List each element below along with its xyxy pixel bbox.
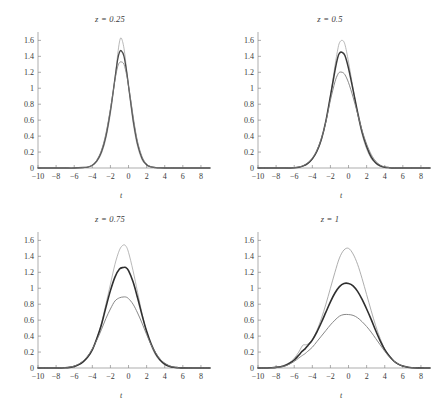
x-tick-label: −10 xyxy=(252,372,265,381)
y-tick-label: 0.2 xyxy=(24,148,34,157)
x-tick-label: 6 xyxy=(401,172,405,181)
x-axis-label-wrap: t xyxy=(220,191,440,200)
x-tick-label: 4 xyxy=(163,372,167,381)
x-tick-label: 0 xyxy=(127,172,131,181)
x-tick-label: 2 xyxy=(145,172,149,181)
data-curve xyxy=(258,248,430,368)
y-tick-label: 0.4 xyxy=(244,332,254,341)
plot-svg: 00.20.40.60.811.21.41.6−10−8−6−4−202468 xyxy=(12,228,212,390)
panel-title: z = 1 xyxy=(220,214,440,224)
x-tick-label: −10 xyxy=(252,172,265,181)
x-axis-label: t xyxy=(318,391,342,400)
x-tick-label: −4 xyxy=(308,172,317,181)
x-tick-label: 6 xyxy=(401,372,405,381)
x-tick-label: −6 xyxy=(70,172,79,181)
y-tick-label: 0.8 xyxy=(24,300,34,309)
x-tick-label: 0 xyxy=(347,372,351,381)
y-tick-label: 0.6 xyxy=(24,316,34,325)
x-axis-label: t xyxy=(98,391,122,400)
x-tick-label: 0 xyxy=(127,372,131,381)
data-curve xyxy=(258,72,430,168)
y-tick-label: 1 xyxy=(30,284,34,293)
panel-title: z = 0.5 xyxy=(220,14,440,24)
x-tick-label: −8 xyxy=(52,172,61,181)
data-curve xyxy=(258,283,430,368)
plot-area: 00.20.40.60.811.21.41.6−10−8−6−4−202468 xyxy=(232,228,432,390)
plot-area: 00.20.40.60.811.21.41.6−10−8−6−4−202468 xyxy=(12,28,212,190)
plot-svg: 00.20.40.60.811.21.41.6−10−8−6−4−202468 xyxy=(232,228,432,390)
x-tick-label: 8 xyxy=(419,172,423,181)
x-tick-label: −2 xyxy=(326,172,335,181)
x-tick-label: 8 xyxy=(419,372,423,381)
panel-z-1: z = 1 00.20.40.60.811.21.41.6−10−8−6−4−2… xyxy=(220,200,440,400)
x-axis-label: t xyxy=(98,191,122,200)
x-tick-label: −10 xyxy=(32,372,45,381)
data-curve xyxy=(38,267,210,368)
x-tick-label: 6 xyxy=(181,172,185,181)
x-tick-label: 4 xyxy=(383,172,387,181)
x-tick-label: 2 xyxy=(365,372,369,381)
x-tick-label: −4 xyxy=(88,172,97,181)
panel-z-0-75: z = 0.75 00.20.40.60.811.21.41.6−10−8−6−… xyxy=(0,200,220,400)
plot-svg: 00.20.40.60.811.21.41.6−10−8−6−4−202468 xyxy=(12,28,212,190)
x-tick-label: 8 xyxy=(199,172,203,181)
x-tick-label: 4 xyxy=(383,372,387,381)
y-tick-label: 1 xyxy=(250,84,254,93)
y-tick-label: 1.6 xyxy=(24,36,34,45)
x-tick-label: −6 xyxy=(290,172,299,181)
data-curve xyxy=(258,314,430,368)
y-tick-label: 0.4 xyxy=(24,132,34,141)
data-curve xyxy=(258,40,430,168)
panel-z-0-5: z = 0.5 00.20.40.60.811.21.41.6−10−8−6−4… xyxy=(220,0,440,200)
y-tick-label: 1.6 xyxy=(244,36,254,45)
plot-svg: 00.20.40.60.811.21.41.6−10−8−6−4−202468 xyxy=(232,28,432,190)
x-axis-label: t xyxy=(318,191,342,200)
x-tick-label: −2 xyxy=(326,372,335,381)
y-tick-label: 0.2 xyxy=(24,348,34,357)
x-tick-label: −2 xyxy=(106,372,115,381)
plot-area: 00.20.40.60.811.21.41.6−10−8−6−4−202468 xyxy=(12,228,212,390)
x-tick-label: −10 xyxy=(32,172,45,181)
y-tick-label: 1.4 xyxy=(24,252,34,261)
x-tick-label: 2 xyxy=(365,172,369,181)
panel-z-0-25: z = 0.25 00.20.40.60.811.21.41.6−10−8−6−… xyxy=(0,0,220,200)
y-tick-label: 0.8 xyxy=(244,300,254,309)
y-tick-label: 1.2 xyxy=(244,68,254,77)
y-tick-label: 1.4 xyxy=(244,252,254,261)
x-tick-label: 2 xyxy=(145,372,149,381)
x-axis-label-wrap: t xyxy=(0,191,220,200)
y-tick-label: 1.4 xyxy=(244,52,254,61)
y-tick-label: 0.4 xyxy=(24,332,34,341)
y-tick-label: 1.6 xyxy=(24,236,34,245)
x-tick-label: −8 xyxy=(272,172,281,181)
y-tick-label: 0.2 xyxy=(244,148,254,157)
x-tick-label: −6 xyxy=(70,372,79,381)
y-tick-label: 1 xyxy=(250,284,254,293)
x-tick-label: −4 xyxy=(308,372,317,381)
x-axis-label-wrap: t xyxy=(220,391,440,400)
y-tick-label: 1.2 xyxy=(244,268,254,277)
x-tick-label: −2 xyxy=(106,172,115,181)
plot-area: 00.20.40.60.811.21.41.6−10−8−6−4−202468 xyxy=(232,28,432,190)
y-tick-label: 1.4 xyxy=(24,52,34,61)
x-tick-label: −4 xyxy=(88,372,97,381)
y-tick-label: 1 xyxy=(30,84,34,93)
x-tick-label: 4 xyxy=(163,172,167,181)
x-tick-label: −8 xyxy=(272,372,281,381)
y-tick-label: 1.2 xyxy=(24,68,34,77)
x-tick-label: 6 xyxy=(181,372,185,381)
y-tick-label: 0.6 xyxy=(244,316,254,325)
y-tick-label: 0.2 xyxy=(244,348,254,357)
data-curve xyxy=(38,245,210,368)
x-tick-label: 0 xyxy=(347,172,351,181)
figure-grid: z = 0.25 00.20.40.60.811.21.41.6−10−8−6−… xyxy=(0,0,440,400)
y-tick-label: 0.6 xyxy=(24,116,34,125)
y-tick-label: 0.8 xyxy=(244,100,254,109)
y-tick-label: 0.4 xyxy=(244,132,254,141)
x-tick-label: −8 xyxy=(52,372,61,381)
x-tick-label: 8 xyxy=(199,372,203,381)
panel-title: z = 0.75 xyxy=(0,214,220,224)
y-tick-label: 1.2 xyxy=(24,268,34,277)
data-curve xyxy=(38,51,210,169)
y-tick-label: 0.6 xyxy=(244,116,254,125)
